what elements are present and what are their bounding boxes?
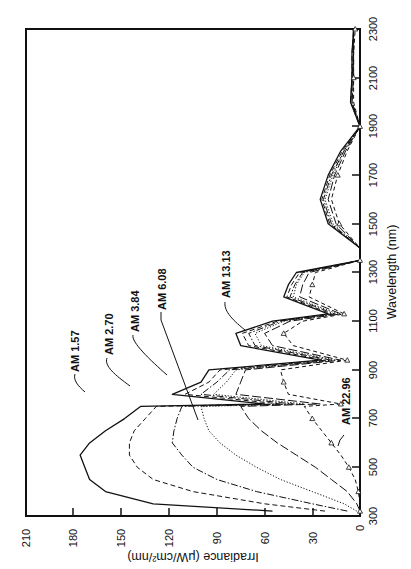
curve-labels: AM 1.57 AM 2.70 AM 3.84 AM 6.08 AM 13.13…: [69, 250, 352, 446]
xtick-1900: 1900: [367, 114, 379, 138]
xtick-700: 700: [367, 409, 379, 427]
xtick-300: 300: [367, 507, 379, 525]
triangle-marker-icon: [345, 358, 350, 363]
leader-am608: [161, 312, 198, 420]
triangle-marker-icon: [358, 509, 363, 514]
triangle-marker-icon: [310, 282, 315, 287]
ytick-90: 90: [211, 532, 223, 544]
ytick-120: 120: [163, 529, 175, 547]
label-am2296: AM 22.96: [340, 377, 352, 425]
triangle-marker-icon: [281, 331, 286, 336]
label-am157: AM 1.57: [69, 330, 81, 372]
xtick-2300: 2300: [367, 17, 379, 41]
ytick-210: 210: [20, 529, 32, 547]
wavelength-axis-title: Wavelength (nm): [385, 225, 399, 320]
plot-frame: [26, 29, 360, 516]
triangle-marker-icon: [281, 380, 286, 385]
irradiance-ticks: [73, 508, 313, 516]
ytick-180: 180: [67, 529, 79, 547]
leader-am270: [107, 358, 130, 386]
leader-am157: [75, 374, 85, 392]
irradiance-tick-labels: 210 180 150 120 90 60 30 0: [20, 525, 366, 547]
label-am270: AM 2.70: [103, 313, 115, 355]
leader-am384: [133, 335, 167, 375]
label-am384: AM 3.84: [129, 290, 141, 332]
label-am608: AM 6.08: [156, 268, 168, 310]
leader-am2296: [338, 435, 344, 446]
ytick-30: 30: [307, 532, 319, 544]
irradiance-chart: 210 180 150 120 90 60 30 0 300 500 700 9…: [0, 0, 411, 569]
label-am1313: AM 13.13: [220, 250, 232, 298]
xtick-900: 900: [367, 361, 379, 379]
curve-am-3-84: [172, 29, 360, 511]
xtick-500: 500: [367, 458, 379, 476]
xtick-1100: 1100: [367, 309, 379, 333]
triangle-marker-icon: [346, 465, 351, 470]
irradiance-axis-title-flipped: Irradiance (μW/cm²/nm): [127, 550, 259, 564]
ytick-60: 60: [259, 532, 271, 544]
xtick-1700: 1700: [367, 163, 379, 187]
triangle-marker-icon: [342, 311, 347, 316]
xtick-1500: 1500: [367, 212, 379, 236]
leader-am1313: [225, 302, 245, 330]
xtick-1300: 1300: [367, 260, 379, 284]
ytick-150: 150: [115, 529, 127, 547]
xtick-2100: 2100: [367, 66, 379, 90]
wavelength-tick-labels: 300 500 700 900 1100 1300 1500 1700 1900…: [367, 17, 379, 525]
triangle-marker-icon: [310, 416, 315, 421]
triangle-marker-icon: [337, 221, 342, 226]
curve-am-22-96: [281, 29, 361, 511]
ytick-0: 0: [354, 525, 366, 531]
